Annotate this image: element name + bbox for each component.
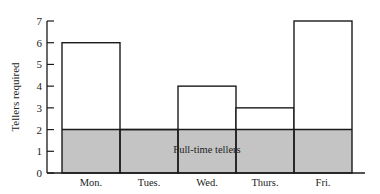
y-tick-label: 5	[37, 58, 43, 70]
x-tick-label: Mon.	[80, 177, 102, 188]
y-tick-label: 1	[37, 145, 43, 157]
y-ticks: 01234567	[37, 15, 55, 179]
tellers-chart: 01234567 Mon.Tues.Wed.Thurs.Fri. Tellers…	[0, 0, 380, 194]
x-labels: Mon.Tues.Wed.Thurs.Fri.	[80, 177, 331, 188]
y-tick-label: 3	[37, 102, 43, 114]
y-tick-label: 0	[37, 167, 43, 179]
x-tick-label: Tues.	[138, 177, 161, 188]
y-tick-label: 4	[37, 80, 43, 92]
full-time-tellers-label: Full-time tellers	[173, 144, 240, 155]
y-tick-label: 2	[37, 124, 43, 136]
y-axis-label: Tellers required	[9, 62, 21, 132]
y-tick-label: 6	[37, 37, 43, 49]
x-tick-label: Fri.	[316, 177, 331, 188]
x-tick-label: Thurs.	[251, 177, 278, 188]
y-tick-label: 7	[37, 15, 43, 27]
x-tick-label: Wed.	[196, 177, 218, 188]
